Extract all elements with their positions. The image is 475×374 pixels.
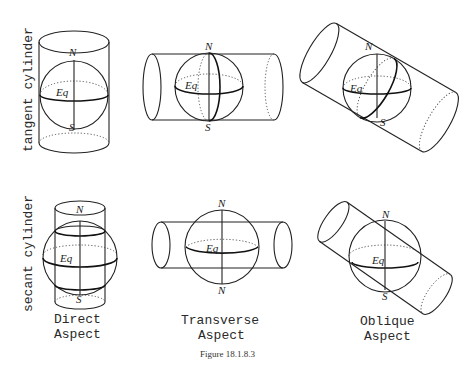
north-label: N — [204, 40, 213, 52]
figure-caption: Figure 18.1.8.3 — [200, 349, 255, 359]
column-label-oblique-line2: Aspect — [364, 329, 411, 344]
equator-label: Eq — [371, 254, 385, 266]
south-label: N — [217, 284, 226, 296]
south-label: S — [69, 121, 75, 133]
south-label: S — [205, 121, 211, 133]
column-label-transverse-line1: Transverse — [181, 313, 259, 328]
column-label-direct-line1: Direct — [54, 312, 101, 327]
panel-secant-direct: N S Eq — [43, 201, 117, 309]
south-label: S — [382, 290, 388, 302]
south-label: S — [380, 116, 386, 128]
north-label: N — [75, 203, 84, 215]
column-label-direct-line2: Aspect — [54, 327, 101, 342]
panel-secant-oblique: N S Eq — [312, 197, 457, 319]
equator-label: Eq — [55, 86, 69, 98]
row-label-tangent: tangent cylinder — [21, 27, 36, 152]
north-label: N — [381, 208, 390, 220]
north-label: N — [68, 46, 77, 58]
panel-tangent-direct: N S Eq — [39, 31, 109, 153]
column-label-transverse-line2: Aspect — [198, 328, 245, 343]
equator-label: Eq — [184, 79, 198, 91]
panel-secant-transverse: N N Eq — [152, 197, 292, 296]
equator-label: Eq — [59, 252, 73, 264]
equator-label: Eq — [205, 242, 219, 254]
panel-tangent-oblique: N S Eq — [293, 18, 466, 157]
row-label-secant: secant cylinder — [21, 195, 36, 312]
panel-tangent-transverse: N S Eq — [143, 40, 283, 133]
south-label: S — [76, 293, 82, 305]
north-label: N — [364, 40, 373, 52]
north-label: N — [217, 197, 226, 209]
cylindrical-projection-diagram: tangent cylinder secant cylinder N S Eq … — [0, 0, 475, 374]
column-label-oblique-line1: Oblique — [360, 314, 415, 329]
equator-label: Eq — [349, 82, 363, 94]
